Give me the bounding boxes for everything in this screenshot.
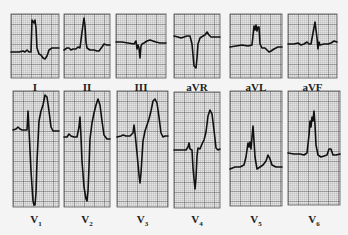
- lead-label-v5: V5: [231, 213, 281, 230]
- lead-label-text: I: [33, 81, 37, 93]
- lead-label-subscript: 3: [145, 220, 149, 228]
- lead-panel-avl: [230, 14, 282, 78]
- lead-panel-avf: [288, 14, 337, 78]
- lead-label-subscript: 5: [258, 220, 262, 228]
- lead-label-text: aVL: [246, 81, 267, 93]
- lead-panel-v5: [230, 91, 282, 206]
- lead-panel-i: [11, 14, 59, 78]
- ecg-grid: [288, 14, 337, 78]
- lead-label-subscript: 6: [316, 220, 320, 228]
- ecg-grid: [230, 91, 282, 206]
- lead-label-subscript: 1: [38, 220, 42, 228]
- lead-panel-iii: [116, 14, 166, 78]
- lead-label-v6: V6: [289, 213, 339, 230]
- lead-label-v3: V3: [118, 213, 168, 230]
- lead-label-ii: II: [62, 81, 112, 93]
- lead-panel-v1: [13, 91, 59, 207]
- lead-label-v2: V2: [62, 213, 112, 230]
- ecg-figure: [0, 0, 348, 235]
- lead-panel-v6: [288, 91, 340, 205]
- lead-label-i: I: [10, 81, 60, 93]
- lead-label-v1: V1: [11, 213, 61, 230]
- ecg-grid: [288, 91, 340, 205]
- lead-panel-v4: [174, 92, 220, 208]
- lead-label-v4: V4: [172, 213, 222, 230]
- lead-label-text: aVF: [302, 81, 322, 93]
- lead-label-iii: III: [116, 81, 166, 93]
- lead-label-text: V: [137, 213, 145, 225]
- lead-panel-v2: [64, 91, 110, 207]
- ecg-panels: [11, 14, 340, 208]
- lead-panel-avr: [174, 14, 220, 78]
- lead-label-subscript: 2: [89, 220, 93, 228]
- lead-label-text: II: [83, 81, 92, 93]
- lead-panel-ii: [64, 14, 110, 78]
- ecg-grid: [64, 91, 110, 207]
- lead-label-avl: aVL: [231, 81, 281, 93]
- ecg-grid: [174, 14, 220, 78]
- lead-label-text: III: [135, 81, 148, 93]
- lead-label-avr: aVR: [172, 81, 222, 93]
- lead-panel-v3: [117, 91, 168, 207]
- lead-label-avf: aVF: [288, 81, 338, 93]
- lead-label-subscript: 4: [199, 220, 203, 228]
- lead-label-text: aVR: [186, 81, 207, 93]
